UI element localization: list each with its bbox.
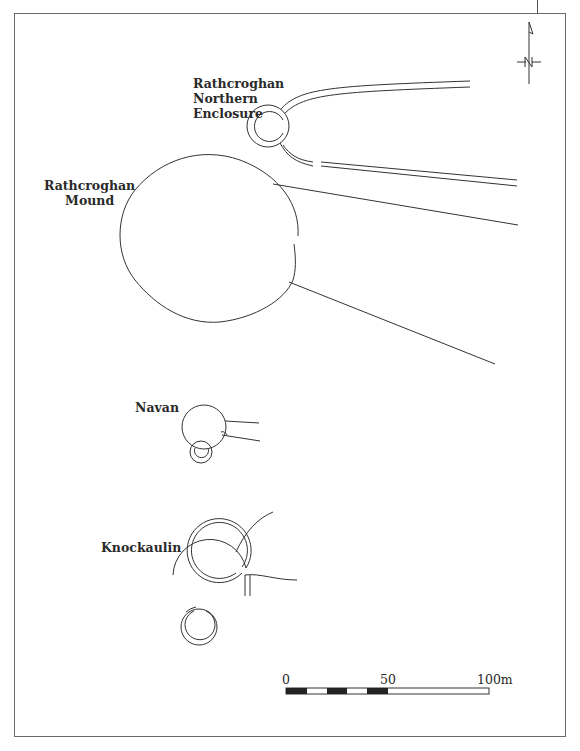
scale-bar [286,688,489,694]
label-navan: Navan [135,400,179,415]
label-line: Knockaulin [101,540,181,555]
label-line: Mound [44,193,135,208]
scale-label-100m: 100m [477,672,513,687]
label-line: Rathcroghan [193,76,284,91]
north-arrow-icon [517,22,541,84]
scale-label-0: 0 [282,672,290,687]
label-rathcroghan-mound: Rathcroghan Mound [44,178,135,208]
scale-label-50: 50 [380,672,396,687]
site-plans-diagram [0,0,580,751]
label-line: Rathcroghan [44,178,135,193]
navan-plan [182,405,260,463]
label-line: Enclosure [193,106,284,121]
label-line: Navan [135,400,179,415]
rathcroghan-northern-enclosure-plan [247,81,517,186]
label-line: Northern [193,91,284,106]
label-knockaulin: Knockaulin [101,540,181,555]
rathcroghan-mound-plan [120,155,518,364]
knockaulin-plan [173,512,297,645]
label-rathcroghan-northern-enclosure: Rathcroghan Northern Enclosure [193,76,284,121]
